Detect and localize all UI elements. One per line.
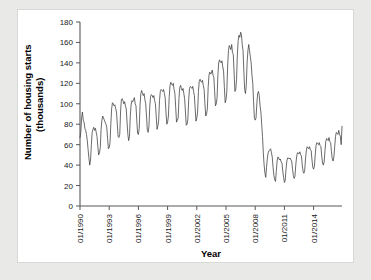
x-axis-ticks: 01/199001/199301/199601/199901/200201/20… xyxy=(76,206,319,243)
housing-starts-line-chart: Number of housing starts (thousands) 020… xyxy=(18,10,355,264)
y-axis-title-line1: Number of housing starts xyxy=(22,44,33,160)
x-tick-label: 01/2014 xyxy=(310,213,319,242)
x-axis-title: Year xyxy=(201,248,221,259)
x-tick-label: 01/2011 xyxy=(280,213,289,242)
plot-background xyxy=(80,22,342,206)
y-axis-ticks: 020406080100120140160180 xyxy=(60,18,80,211)
y-tick-label: 160 xyxy=(60,38,74,47)
y-tick-label: 120 xyxy=(60,79,74,88)
y-tick-label: 80 xyxy=(64,120,73,129)
y-tick-label: 60 xyxy=(64,141,73,150)
chart-plot-area: Number of housing starts (thousands) 020… xyxy=(18,10,355,264)
y-axis-title-line2: (thousands) xyxy=(34,78,45,132)
figure-card: Number of housing starts (thousands) 020… xyxy=(17,9,354,263)
x-tick-label: 01/1990 xyxy=(76,213,85,242)
y-axis-title: Number of housing starts (thousands) xyxy=(22,44,45,160)
x-tick-label: 01/2002 xyxy=(193,213,202,242)
y-tick-label: 40 xyxy=(64,161,73,170)
x-tick-label: 01/2008 xyxy=(251,213,260,242)
y-tick-label: 140 xyxy=(60,59,74,68)
x-tick-label: 01/1999 xyxy=(164,213,173,242)
y-tick-label: 180 xyxy=(60,18,74,27)
x-tick-label: 01/1993 xyxy=(105,213,114,242)
y-tick-label: 100 xyxy=(60,100,74,109)
y-tick-label: 20 xyxy=(64,182,73,191)
y-tick-label: 0 xyxy=(69,202,74,211)
x-tick-label: 01/1996 xyxy=(134,213,143,242)
x-tick-label: 01/2005 xyxy=(222,213,231,242)
